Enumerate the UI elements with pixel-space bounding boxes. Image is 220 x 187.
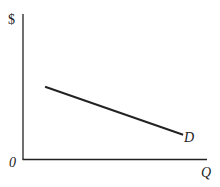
- x-axis-label: Q: [201, 165, 211, 180]
- curve-label: D: [183, 130, 194, 145]
- origin-label: 0: [9, 155, 16, 170]
- demand-curve: [45, 87, 183, 135]
- y-axis-label: $: [8, 12, 15, 27]
- demand-diagram: $ 0 Q D: [0, 0, 220, 187]
